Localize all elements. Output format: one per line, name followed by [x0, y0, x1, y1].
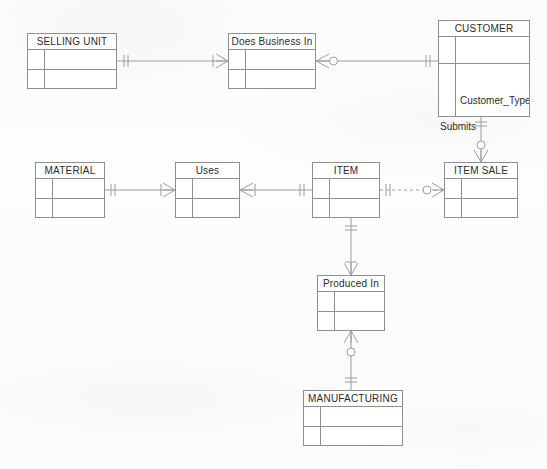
entity-name: Does Business In: [229, 34, 315, 50]
entity-produced-in[interactable]: Produced In: [317, 275, 385, 331]
entity-item-sale[interactable]: ITEM SALE: [444, 162, 518, 218]
er-diagram-canvas: SELLING UNIT Does Business In CUSTOMER C…: [0, 0, 547, 469]
connector-material-uses: [105, 183, 175, 197]
entity-name: MANUFACTURING: [304, 391, 402, 407]
entity-name: CUSTOMER: [439, 21, 529, 37]
entity-name: ITEM SALE: [445, 163, 517, 179]
entity-body: [313, 179, 379, 217]
connector-uses-item: [240, 183, 312, 197]
entity-body: [304, 407, 402, 445]
entity-does-business-in[interactable]: Does Business In: [228, 33, 316, 89]
entity-name: ITEM: [313, 163, 379, 179]
connector-selling-unit-does-business-in: [117, 54, 228, 68]
pk-separator: [229, 69, 315, 70]
pk-divider: [455, 37, 456, 116]
entity-body: [36, 179, 104, 217]
entity-selling-unit[interactable]: SELLING UNIT: [27, 33, 117, 89]
entity-material[interactable]: MATERIAL: [35, 162, 105, 218]
entity-body: [176, 179, 239, 217]
connector-item-item-sale: [380, 183, 444, 197]
entity-body: Customer_Type National? Regular?: [439, 37, 529, 116]
entity-item[interactable]: ITEM: [312, 162, 380, 218]
pk-separator: [28, 69, 116, 70]
pk-separator: [318, 311, 384, 312]
entity-name: Produced In: [318, 276, 384, 292]
pk-separator: [304, 426, 402, 427]
entity-attributes: Customer_Type National? Regular?: [460, 67, 530, 117]
entity-name: SELLING UNIT: [28, 34, 116, 50]
entity-name: Uses: [176, 163, 239, 179]
entity-body: [445, 179, 517, 217]
connector-item-produced-in: [344, 218, 358, 275]
entity-customer[interactable]: CUSTOMER Customer_Type National? Regular…: [438, 20, 530, 117]
entity-body: [318, 292, 384, 330]
pk-separator: [445, 198, 517, 199]
entity-name: MATERIAL: [36, 163, 104, 179]
entity-body: [28, 50, 116, 88]
connector-produced-in-manufacturing: [344, 331, 358, 390]
pk-separator: [439, 63, 529, 64]
connector-does-business-in-customer: [316, 54, 438, 68]
entity-uses[interactable]: Uses: [175, 162, 240, 218]
attribute-row: Customer_Type: [460, 94, 530, 108]
pk-separator: [313, 198, 379, 199]
relationship-label-submits: Submits: [440, 121, 476, 132]
entity-manufacturing[interactable]: MANUFACTURING: [303, 390, 403, 446]
pk-separator: [176, 198, 239, 199]
entity-body: [229, 50, 315, 88]
pk-separator: [36, 198, 104, 199]
